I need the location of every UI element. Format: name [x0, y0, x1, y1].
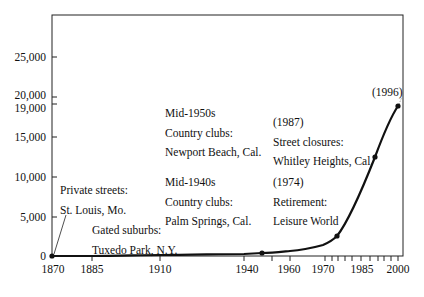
marker-1870	[49, 253, 54, 258]
y-tick-label: 5,000	[20, 211, 46, 223]
chart: 0 5,000 10,000 15,000 19,000 20,000 25,0…	[0, 0, 424, 297]
marker-1945	[259, 250, 264, 255]
x-tick-label: 1985	[351, 263, 374, 275]
y-axis-ticks	[52, 57, 57, 256]
y-tick-label: 19,000	[14, 102, 46, 114]
y-tick-label: 20,000	[14, 89, 46, 101]
y-tick-label: 15,000	[14, 131, 46, 143]
y-tick-label: 25,000	[14, 51, 46, 63]
x-tick-label: 2000	[387, 263, 410, 275]
y-tick-label: 0	[40, 250, 46, 262]
x-tick-label: 1940	[236, 263, 259, 275]
annotation-private-streets: Private streets: St. Louis, Mo.	[60, 181, 128, 220]
x-tick-label: 1870	[42, 263, 65, 275]
y-tick-label: 10,000	[14, 171, 46, 183]
x-tick-label: 1960	[278, 263, 301, 275]
marker-1974	[334, 233, 339, 238]
annotation-1974: (1974) Retirement: Leisure World	[273, 173, 339, 232]
annotation-mid-1950s: Mid-1950s Country clubs: Newport Beach, …	[165, 104, 261, 163]
x-tick-label: 1970	[312, 263, 335, 275]
x-tick-label: 1910	[149, 263, 172, 275]
annotation-1987: (1987) Street closures: Whitley Heights,…	[273, 113, 373, 172]
annotation-1996: (1996)	[372, 83, 403, 103]
annotation-leader-line	[54, 215, 66, 254]
x-tick-label: 1885	[81, 263, 104, 275]
annotation-mid-1940s: Mid-1940s Country clubs: Palm Springs, C…	[165, 173, 251, 232]
marker-1996	[395, 103, 400, 108]
